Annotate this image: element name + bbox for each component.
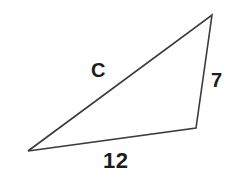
side-label-hypotenuse: C bbox=[91, 60, 105, 80]
triangle-outline bbox=[28, 15, 212, 151]
side-label-vertical: 7 bbox=[211, 70, 222, 90]
side-label-base: 12 bbox=[103, 150, 128, 172]
triangle-figure: C 7 12 bbox=[0, 0, 235, 174]
